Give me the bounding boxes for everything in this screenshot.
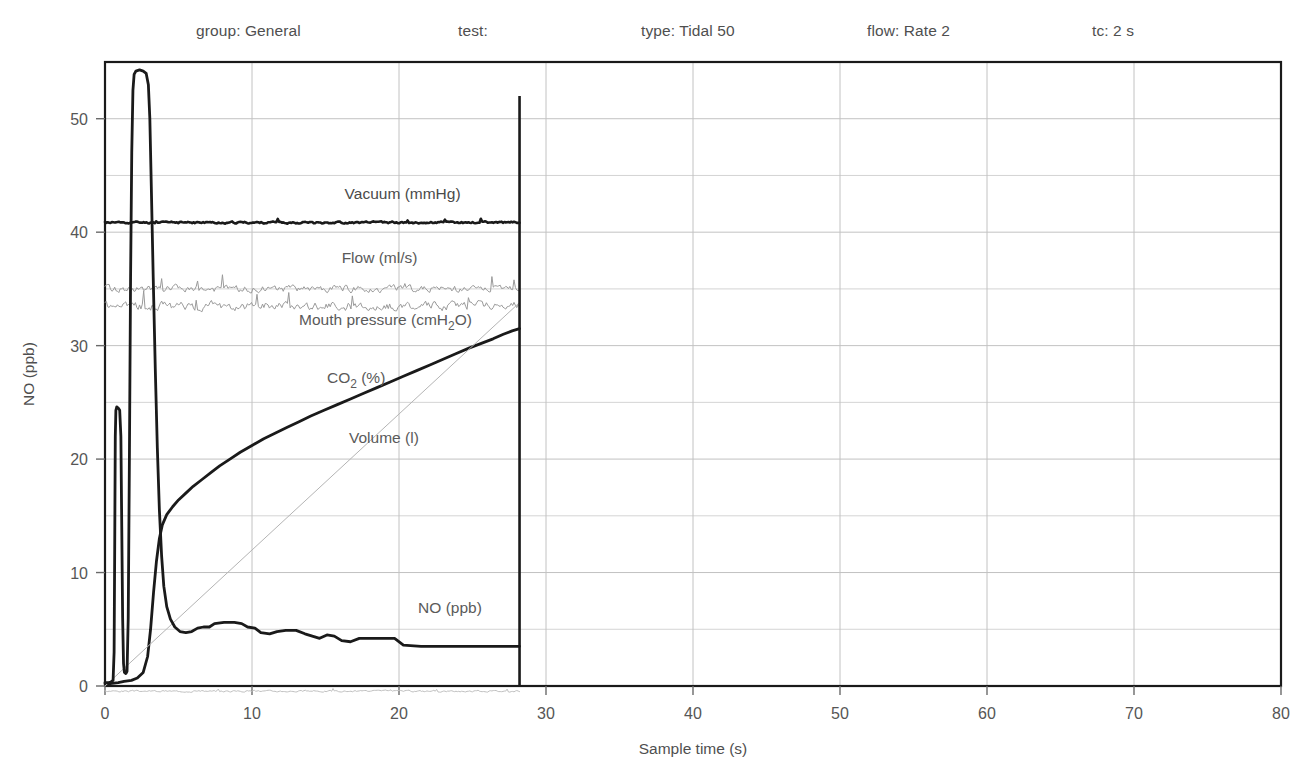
x-axis-title: Sample time (s) — [639, 740, 748, 757]
no-vs-sample-time-plot: 0102030405001020304050607080Sample time … — [0, 0, 1302, 781]
x-tick-label: 30 — [537, 705, 555, 722]
series-label: Mouth pressure (cmH2O) — [299, 311, 472, 333]
x-tick-label: 80 — [1272, 705, 1290, 722]
chart-area: 0102030405001020304050607080Sample time … — [0, 0, 1302, 781]
series-line — [105, 688, 520, 692]
y-tick-label: 30 — [70, 338, 88, 355]
y-tick-label: 50 — [70, 111, 88, 128]
series-line — [105, 275, 520, 293]
x-tick-label: 0 — [101, 705, 110, 722]
series-label: Flow (ml/s) — [342, 249, 418, 266]
y-tick-label: 20 — [70, 451, 88, 468]
x-tick-label: 70 — [1125, 705, 1143, 722]
y-tick-label: 10 — [70, 565, 88, 582]
series-line — [105, 329, 520, 684]
series-label: NO (ppb) — [418, 599, 482, 616]
x-tick-label: 50 — [831, 705, 849, 722]
series-line — [105, 291, 520, 312]
x-tick-label: 10 — [243, 705, 261, 722]
series-line — [105, 219, 520, 224]
series-line — [105, 70, 520, 683]
series-line — [105, 303, 520, 686]
series-label: Vacuum (mmHg) — [345, 185, 461, 202]
y-axis-title: NO (ppb) — [20, 342, 37, 406]
no-analyzer-chart-page: group: General test: type: Tidal 50 flow… — [0, 0, 1302, 781]
series-label: Volume (l) — [349, 429, 419, 446]
x-tick-label: 20 — [390, 705, 408, 722]
y-tick-label: 40 — [70, 224, 88, 241]
x-tick-label: 60 — [978, 705, 996, 722]
y-tick-label: 0 — [79, 678, 88, 695]
x-tick-label: 40 — [684, 705, 702, 722]
